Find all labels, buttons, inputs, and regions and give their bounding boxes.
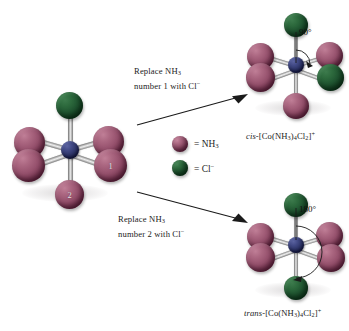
- trans-isomer-formula: trans-[Co(NH3)4Cl2]+: [244, 307, 321, 318]
- trans-ligand-lower-left-ammine: [246, 243, 275, 272]
- cis-ligand-bottom-ammine: [283, 93, 309, 119]
- chemistry-isomer-diagram: 1 2 Replace NH3 number 2 with Clnumber 1…: [0, 0, 349, 331]
- legend-swatch-cl-icon: [172, 160, 188, 176]
- legend-label-nh3: = NH3: [194, 139, 219, 149]
- replace-nh3-2-line1: Replace NH3: [118, 214, 165, 224]
- ligand-label-1: 1: [94, 149, 127, 182]
- ligand-top-chloride: [56, 92, 83, 119]
- trans-isomer-molecule: 180°: [243, 190, 347, 302]
- trans-angle-label: 180°: [299, 204, 316, 214]
- replace-nh3-1-caption: Replace NH3 number 2 with Clnumber 1 wit…: [134, 66, 201, 92]
- legend-item-chloride: = Cl−: [172, 160, 268, 178]
- replace-nh3-2-caption: Replace NH3 number 2 with Cl−: [118, 214, 185, 240]
- replace-nh3-1-arrow: [136, 93, 250, 127]
- cis-isomer-formula: cis-[Co(NH3)4Cl2]+: [246, 130, 315, 141]
- cis-angle-label: 90°: [299, 27, 312, 37]
- legend-swatch-nh3-icon: [172, 136, 188, 152]
- legend-label-cl: = Cl−: [194, 163, 214, 174]
- ligand-label-2: 2: [55, 180, 84, 209]
- replace-nh3-1-line2: number 2 with Clnumber 1 with Cl−: [134, 81, 201, 91]
- cis-isomer-molecule: 90°: [243, 10, 347, 122]
- replace-nh3-1-line1: Replace NH3: [134, 66, 181, 76]
- ligand-bottom-ammine-2: 2: [55, 180, 84, 209]
- reactant-molecule: 1 2: [8, 92, 133, 210]
- trans-angle-arc: [287, 206, 339, 282]
- cobalt-center-atom: [61, 141, 79, 159]
- replace-nh3-2-line2: number 2 with Cl−: [118, 229, 185, 239]
- ligand-lower-left-ammine: [12, 149, 45, 182]
- cis-ligand-lower-left-ammine: [246, 63, 275, 92]
- ligand-lower-right-ammine-1: 1: [94, 149, 127, 182]
